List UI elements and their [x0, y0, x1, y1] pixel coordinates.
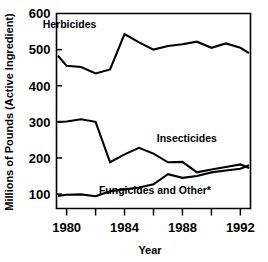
- x-tick-label: 1988: [168, 220, 197, 235]
- y-tick-label: 500: [29, 42, 51, 57]
- y-tick-label: 100: [29, 187, 51, 202]
- y-tick-label: 200: [29, 151, 51, 166]
- series-label-fungicides-and-other: Fungicides and Other*: [99, 184, 212, 196]
- x-tick-label: 1984: [110, 220, 140, 235]
- line-chart-canvas: Millions of Pounds (Active Ingredient) Y…: [0, 0, 268, 262]
- chart-figure: Millions of Pounds (Active Ingredient) Y…: [0, 0, 268, 262]
- x-tick-label: 1992: [226, 220, 255, 235]
- y-tick-label: 300: [29, 115, 51, 130]
- plot-area-frame: [57, 14, 251, 209]
- x-axis-tick-marks: [67, 209, 241, 216]
- series-label-herbicides: Herbicides: [43, 18, 97, 30]
- x-axis-tick-labels: 1980198419881992: [52, 220, 255, 235]
- data-series-group: [58, 34, 249, 196]
- x-axis-title: Year: [138, 244, 162, 256]
- y-axis-title: Millions of Pounds (Active Ingredient): [3, 13, 15, 211]
- series-label-insecticides: Insecticides: [157, 132, 217, 144]
- series-annotation-group: HerbicidesInsecticidesFungicides and Oth…: [43, 18, 217, 196]
- series-line-herbicides: [58, 34, 249, 73]
- y-tick-label: 400: [29, 79, 51, 94]
- series-line-insecticides: [58, 119, 249, 172]
- y-axis-tick-labels: 100200300400500600: [29, 6, 51, 202]
- x-tick-label: 1980: [52, 220, 81, 235]
